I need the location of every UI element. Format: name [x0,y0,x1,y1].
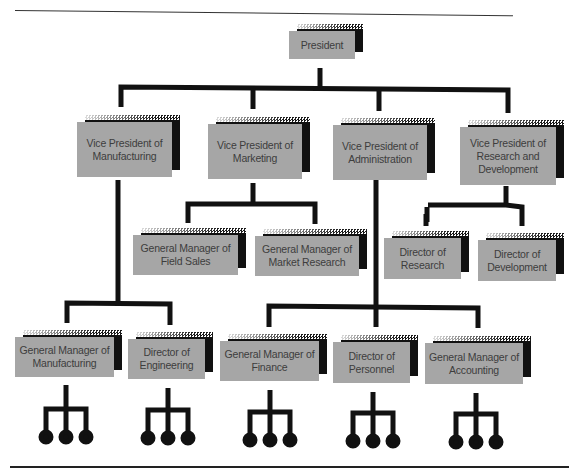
subordinate-branches [41,385,501,447]
node-gm-market-research: General Manager of Market Research [255,236,359,276]
node-label: General Manager of Accounting [425,343,523,384]
node-dir-personnel: Director of Personnel [333,342,410,383]
node-gm-manufacturing: General Manager of Manufacturing [15,337,114,377]
node-label: Director of Personnel [333,342,410,383]
node-label: Vice President of Administration [333,125,427,180]
node-label: Director of Engineering [128,339,205,379]
node-vp-administration: Vice President of Administration [333,125,427,180]
node-label: General Manager of Manufacturing [15,337,114,377]
node-label: Vice President of Research and Developme… [460,127,556,185]
node-label: Vice President of Manufacturing [77,122,172,177]
node-vp-marketing: Vice President of Marketing [208,124,302,179]
node-gm-accounting: General Manager of Accounting [425,343,523,384]
node-label: General Manager of Field Sales [133,235,238,275]
node-dir-development: Director of Development [478,240,556,281]
node-label: President [289,31,355,59]
node-gm-finance: General Manager of Finance [220,341,319,381]
node-vp-research: Vice President of Research and Developme… [460,127,556,185]
node-dir-engineering: Director of Engineering [128,339,205,379]
node-label: General Manager of Market Research [255,236,359,276]
node-label: Director of Development [478,240,556,281]
node-president: President [289,31,355,59]
node-gm-field-sales: General Manager of Field Sales [133,235,238,275]
bottom-rule [10,466,569,468]
node-label: Vice President of Marketing [208,124,302,179]
node-label: Director of Research [384,238,461,279]
node-vp-manufacturing: Vice President of Manufacturing [77,122,172,177]
node-label: General Manager of Finance [220,341,319,381]
node-dir-research: Director of Research [384,238,461,279]
